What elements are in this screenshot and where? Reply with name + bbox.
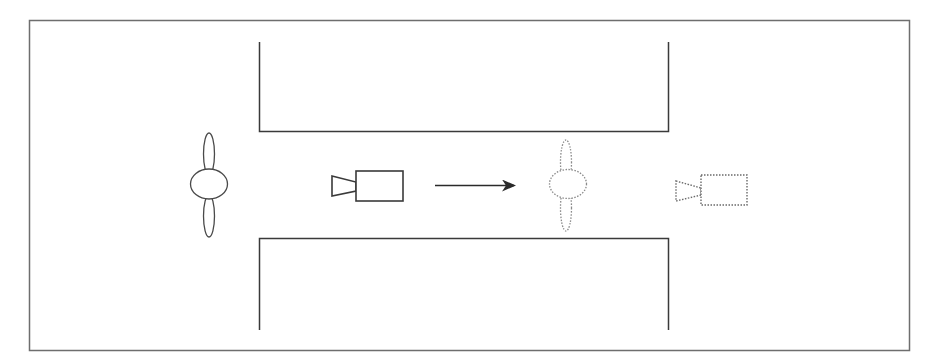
camera-start-icon <box>332 171 403 201</box>
corridor-tracking-diagram <box>0 0 935 362</box>
person-start-icon <box>191 133 228 237</box>
corridor-wall-bottom <box>260 239 669 331</box>
corridor-wall-top <box>260 42 669 132</box>
person-end-dotted-icon <box>550 140 587 231</box>
camera-end-dotted-icon <box>676 175 747 205</box>
